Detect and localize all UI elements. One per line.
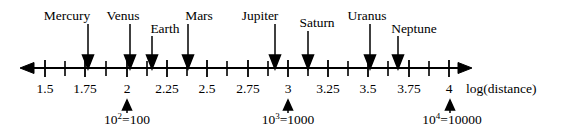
- axis-left-arrowhead: [20, 63, 34, 74]
- planet-label-jupiter: Jupiter: [242, 9, 279, 23]
- planet-label-venus: Venus: [107, 9, 140, 23]
- power-note-1000: 103=1000: [262, 112, 315, 127]
- planet-arrow-jupiter: [270, 24, 281, 69]
- power-note-10000: 104=10000: [422, 112, 481, 127]
- power-note-10000-base: 10: [422, 112, 436, 127]
- number-line-figure: Mercury Venus Earth Mars Jupiter Saturn …: [0, 0, 574, 138]
- planet-arrow-uranus: [365, 24, 376, 69]
- tick-label-3-75: 3.75: [397, 82, 421, 96]
- power-note-100-base: 10: [104, 112, 118, 127]
- planet-pointer-arrows: [83, 24, 404, 69]
- tick-label-3: 3: [285, 82, 292, 96]
- power-note-100: 102=100: [104, 112, 150, 127]
- tick-label-1-5: 1.5: [37, 82, 54, 96]
- power-note-1000-base: 10: [262, 112, 276, 127]
- planet-label-mercury: Mercury: [44, 9, 90, 23]
- power-note-1000-value: =1000: [280, 112, 315, 127]
- planet-label-earth: Earth: [150, 22, 179, 36]
- axis-right-arrowhead: [458, 63, 472, 74]
- planet-label-saturn: Saturn: [299, 16, 334, 30]
- planet-arrow-mars: [183, 24, 194, 69]
- tick-label-2-25: 2.25: [155, 82, 179, 96]
- tick-label-2-5: 2.5: [199, 82, 216, 96]
- tick-label-3-25: 3.25: [316, 82, 340, 96]
- planet-arrow-earth: [147, 36, 158, 69]
- planet-label-mars: Mars: [185, 9, 213, 23]
- planet-arrow-neptune: [393, 36, 404, 69]
- tick-label-3-5: 3.5: [360, 82, 377, 96]
- tick-label-2-75: 2.75: [236, 82, 260, 96]
- axis-title: log(distance): [466, 82, 536, 96]
- planet-label-uranus: Uranus: [348, 9, 387, 23]
- power-note-10000-value: =10000: [440, 112, 481, 127]
- power-note-100-value: =100: [122, 112, 150, 127]
- planet-label-neptune: Neptune: [391, 22, 437, 36]
- tick-label-1-75: 1.75: [73, 82, 97, 96]
- tick-label-2: 2: [124, 82, 131, 96]
- axis-line-group: [20, 24, 472, 113]
- planet-arrow-saturn: [303, 31, 314, 69]
- tick-label-4: 4: [446, 82, 453, 96]
